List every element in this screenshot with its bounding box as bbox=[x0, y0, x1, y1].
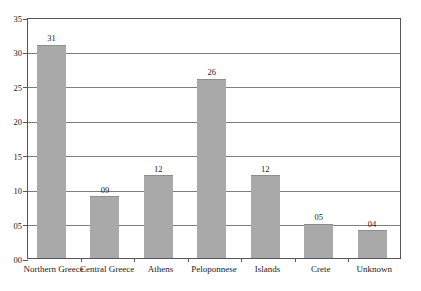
x-axis-category-label: Unknown bbox=[357, 265, 393, 274]
y-axis-label: 20 bbox=[14, 118, 23, 127]
bar-group: 04 bbox=[349, 19, 402, 258]
x-axis-category-label: Central Greece bbox=[80, 265, 134, 274]
bar[interactable] bbox=[251, 175, 280, 258]
bar[interactable] bbox=[358, 230, 387, 258]
bar[interactable] bbox=[144, 175, 173, 258]
x-axis-tick bbox=[295, 258, 296, 262]
x-axis-category-label: Athens bbox=[148, 265, 174, 274]
bar[interactable] bbox=[197, 79, 226, 258]
y-axis-label: 30 bbox=[14, 49, 23, 58]
x-axis-category-label: Northern Greece bbox=[24, 265, 84, 274]
bar-value-label: 31 bbox=[37, 34, 66, 43]
bar[interactable] bbox=[90, 196, 119, 258]
x-axis-category-label: Peloponnese bbox=[191, 265, 237, 274]
x-axis-category-label: Crete bbox=[311, 265, 331, 274]
y-axis-label: 25 bbox=[14, 84, 23, 93]
bar-value-label: 26 bbox=[197, 68, 226, 77]
bar-value-label: 12 bbox=[251, 165, 280, 174]
x-axis-tick bbox=[134, 258, 135, 262]
x-axis-tick bbox=[241, 258, 242, 262]
bar-group: 09 bbox=[81, 19, 134, 258]
y-axis-tick bbox=[23, 260, 28, 261]
bar-value-label: 09 bbox=[90, 186, 119, 195]
bar[interactable] bbox=[37, 45, 66, 258]
bar-group: 12 bbox=[135, 19, 188, 258]
y-axis-label: 35 bbox=[14, 15, 23, 24]
plot-area: 0005101520253035 31091226120504 bbox=[27, 18, 401, 259]
y-axis-label: 05 bbox=[14, 221, 23, 230]
bar-group: 05 bbox=[295, 19, 348, 258]
x-axis-tick bbox=[348, 258, 349, 262]
x-axis-category-label: Islands bbox=[255, 265, 281, 274]
bars-layer: 31091226120504 bbox=[28, 19, 400, 258]
y-axis-label: 00 bbox=[14, 256, 23, 265]
bar[interactable] bbox=[304, 224, 333, 258]
x-axis-tick bbox=[81, 258, 82, 262]
bar-value-label: 04 bbox=[358, 220, 387, 229]
bar-chart: 0005101520253035 31091226120504 Northern… bbox=[0, 0, 421, 291]
bar-group: 26 bbox=[188, 19, 241, 258]
y-axis-label: 15 bbox=[14, 152, 23, 161]
bar-group: 12 bbox=[242, 19, 295, 258]
bar-value-label: 12 bbox=[144, 165, 173, 174]
y-axis-label: 10 bbox=[14, 187, 23, 196]
bar-value-label: 05 bbox=[304, 213, 333, 222]
x-axis-tick bbox=[188, 258, 189, 262]
bar-group: 31 bbox=[28, 19, 81, 258]
